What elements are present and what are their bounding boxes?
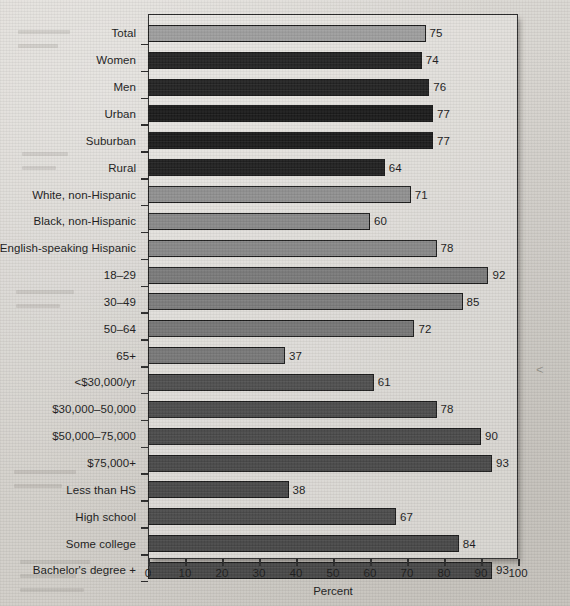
bar-value-label: 77: [437, 108, 450, 120]
bar: 75: [148, 25, 426, 42]
bar-row: 75: [148, 20, 570, 47]
category-label: $75,000+: [87, 450, 136, 477]
bar-row: 93: [148, 450, 570, 477]
y-axis-tick: [141, 205, 148, 207]
category-label: English-speaking Hispanic: [0, 235, 136, 262]
y-axis-tick: [141, 339, 148, 341]
y-axis-tick: [141, 71, 148, 73]
bar: 93: [148, 455, 492, 472]
category-label: Less than HS: [66, 476, 136, 503]
bar-value-label: 67: [400, 511, 413, 523]
bar-value-label: 78: [441, 242, 454, 254]
bar-value-label: 90: [485, 430, 498, 442]
bar-value-label: 76: [433, 81, 446, 93]
bar-row: 67: [148, 503, 570, 530]
bar: 90: [148, 428, 481, 445]
bar: 74: [148, 52, 422, 69]
bar-value-label: 92: [492, 269, 505, 281]
bar-row: 64: [148, 154, 570, 181]
x-axis-tick: [370, 559, 372, 566]
x-axis-tick-label: 70: [401, 567, 414, 579]
bar-row: 90: [148, 423, 570, 450]
bar: 84: [148, 535, 459, 552]
category-label: 50–64: [104, 315, 136, 342]
category-label: <$30,000/yr: [74, 369, 136, 396]
y-axis-tick: [141, 124, 148, 126]
x-axis-tick: [185, 559, 187, 566]
x-axis-tick-label: 40: [290, 567, 303, 579]
category-label: Urban: [104, 101, 136, 128]
category-label: Bachelor's degree +: [33, 557, 136, 584]
category-label: Total: [111, 20, 136, 47]
bar-value-label: 78: [441, 403, 454, 415]
bar: 67: [148, 508, 396, 525]
bar: 38: [148, 481, 289, 498]
bar: 78: [148, 240, 437, 257]
bar-row: 74: [148, 47, 570, 74]
category-label: Some college: [66, 530, 136, 557]
bar-row: 84: [148, 530, 570, 557]
bar-value-label: 84: [463, 538, 476, 550]
value-axis: 0102030405060708090100: [148, 559, 518, 605]
bar: 78: [148, 401, 437, 418]
bar-value-label: 72: [418, 323, 431, 335]
x-axis-tick: [259, 559, 261, 566]
y-axis-tick: [141, 500, 148, 502]
bar: 72: [148, 320, 414, 337]
bar: 37: [148, 347, 285, 364]
bar-value-label: 74: [426, 54, 439, 66]
bar-row: 78: [148, 396, 570, 423]
category-label: 30–49: [104, 289, 136, 316]
category-label: Men: [113, 74, 136, 101]
y-axis-tick: [141, 151, 148, 153]
bar-value-label: 60: [374, 215, 387, 227]
bar-value-label: 71: [415, 189, 428, 201]
bar-value-label: 64: [389, 162, 402, 174]
x-axis-tick-label: 90: [475, 567, 488, 579]
x-axis-tick-label: 50: [327, 567, 340, 579]
x-axis-title: Percent: [148, 585, 518, 597]
bar-value-label: 37: [289, 350, 302, 362]
y-axis-tick: [141, 447, 148, 449]
bar-row: 38: [148, 476, 570, 503]
x-axis-tick: [407, 559, 409, 566]
y-axis-tick: [141, 366, 148, 368]
y-axis-tick: [141, 232, 148, 234]
category-label: Women: [96, 47, 136, 74]
y-axis-tick: [141, 554, 148, 556]
bar-value-label: 61: [378, 376, 391, 388]
x-axis-tick: [481, 559, 483, 566]
bar-row: 61: [148, 369, 570, 396]
category-label: Black, non-Hispanic: [33, 208, 136, 235]
y-axis-tick: [141, 393, 148, 395]
category-label: $50,000–75,000: [52, 423, 136, 450]
y-axis-tick: [141, 527, 148, 529]
x-axis-tick-label: 60: [364, 567, 377, 579]
bar: 61: [148, 374, 374, 391]
bar-row: 77: [148, 127, 570, 154]
x-axis-tick-label: 0: [145, 567, 151, 579]
x-axis-tick: [148, 559, 150, 566]
y-axis-tick: [141, 286, 148, 288]
x-axis-tick: [222, 559, 224, 566]
y-axis-tick: [141, 420, 148, 422]
category-label: High school: [75, 503, 136, 530]
bar: 85: [148, 293, 463, 310]
category-axis: TotalWomenMenUrbanSuburbanRuralWhite, no…: [0, 14, 144, 551]
y-axis-tick: [141, 178, 148, 180]
bar-row: 77: [148, 101, 570, 128]
x-axis-tick: [444, 559, 446, 566]
category-label: $30,000–50,000: [52, 396, 136, 423]
bar-row: 37: [148, 342, 570, 369]
y-axis-tick: [141, 44, 148, 46]
y-axis-tick: [141, 98, 148, 100]
bar: 77: [148, 132, 433, 149]
category-label: Rural: [108, 154, 136, 181]
bar-value-label: 85: [467, 296, 480, 308]
category-label: White, non-Hispanic: [32, 181, 136, 208]
bars-container: 7574767777647160789285723761789093386784…: [148, 14, 518, 551]
bar: 76: [148, 79, 429, 96]
bar-row: 60: [148, 208, 570, 235]
bar: 92: [148, 267, 488, 284]
x-axis-tick: [296, 559, 298, 566]
